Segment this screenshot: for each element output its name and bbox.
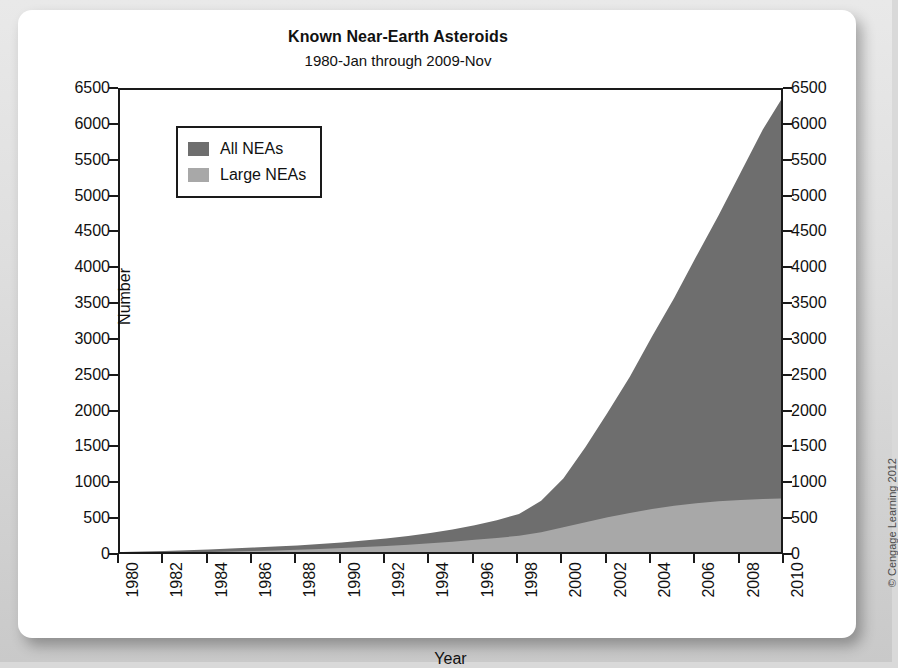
y-tick-label-right: 1000 <box>791 474 861 490</box>
legend-item-large-neas: Large NEAs <box>188 162 306 188</box>
y-tick-label-left: 5500 <box>44 152 110 168</box>
y-tick-label-right: 6000 <box>791 116 861 132</box>
y-tick-label-left: 3000 <box>44 331 110 347</box>
legend-label-all-neas: All NEAs <box>220 140 283 158</box>
y-tick-left <box>109 338 118 340</box>
y-tick-label-left: 4500 <box>44 223 110 239</box>
y-tick-label-left: 1000 <box>44 474 110 490</box>
y-tick-label-right: 3000 <box>791 331 861 347</box>
y-tick-left <box>109 230 118 232</box>
x-tick-label: 1984 <box>213 562 231 598</box>
y-tick-label-right: 4500 <box>791 223 861 239</box>
y-tick-label-right: 5500 <box>791 152 861 168</box>
y-tick-label-left: 3500 <box>44 295 110 311</box>
y-tick-label-right: 500 <box>791 510 861 526</box>
x-tick-label: 1998 <box>523 562 541 598</box>
y-tick-label-left: 4000 <box>44 259 110 275</box>
x-tick-label: 2008 <box>745 562 763 598</box>
figure-card: Known Near-Earth Asteroids 1980-Jan thro… <box>18 10 856 638</box>
y-tick-label-left: 1500 <box>44 438 110 454</box>
y-tick-left <box>109 87 118 89</box>
legend-item-all-neas: All NEAs <box>188 136 306 162</box>
y-tick-label-right: 4000 <box>791 259 861 275</box>
y-tick-label-right: 5000 <box>791 188 861 204</box>
y-tick-left <box>109 445 118 447</box>
x-tick-label: 1986 <box>257 562 275 598</box>
x-tick-label: 2000 <box>567 562 585 598</box>
y-tick-label-right: 3500 <box>791 295 861 311</box>
x-tick-label: 1982 <box>168 562 186 598</box>
y-tick-left <box>109 517 118 519</box>
x-tick-label: 1980 <box>124 562 142 598</box>
x-tick-label: 1994 <box>434 562 452 598</box>
y-tick-label-left: 5000 <box>44 188 110 204</box>
y-axis-title: Number <box>116 268 134 325</box>
y-tick-label-left: 2500 <box>44 367 110 383</box>
legend-swatch-all-neas <box>188 142 209 156</box>
chart-subtitle: 1980-Jan through 2009-Nov <box>18 52 778 69</box>
y-axis-labels-left: 0500100015002000250030003500400045005000… <box>44 88 110 554</box>
copyright-credit: © Cengage Learning 2012 <box>886 458 898 587</box>
y-tick-label-left: 2000 <box>44 403 110 419</box>
y-tick-label-right: 0 <box>791 546 861 562</box>
x-tick-label: 1988 <box>301 562 319 598</box>
y-tick-left <box>109 123 118 125</box>
chart-legend: All NEAs Large NEAs <box>176 126 322 198</box>
x-tick-label: 2006 <box>700 562 718 598</box>
x-axis-labels: 1980198219841986198819901992199419961998… <box>118 558 783 638</box>
x-tick-label: 2010 <box>789 562 807 598</box>
x-tick-label: 2004 <box>656 562 674 598</box>
x-axis-title: Year <box>118 650 783 668</box>
chart-title: Known Near-Earth Asteroids <box>18 28 778 46</box>
x-tick-label: 1990 <box>346 562 364 598</box>
y-axis-labels-right: 0500100015002000250030003500400045005000… <box>791 88 861 554</box>
y-tick-label-left: 6000 <box>44 116 110 132</box>
plot-area: 0500100015002000250030003500400045005000… <box>118 88 783 554</box>
x-tick-label: 1992 <box>390 562 408 598</box>
y-tick-label-left: 500 <box>44 510 110 526</box>
y-tick-left <box>109 374 118 376</box>
y-tick-left <box>109 410 118 412</box>
x-tick-label: 2002 <box>612 562 630 598</box>
y-tick-label-right: 1500 <box>791 438 861 454</box>
legend-swatch-large-neas <box>188 168 209 182</box>
y-tick-left <box>109 481 118 483</box>
series-area-large-neas <box>120 498 783 554</box>
legend-label-large-neas: Large NEAs <box>220 166 306 184</box>
x-tick-label: 1996 <box>479 562 497 598</box>
y-tick-label-right: 2000 <box>791 403 861 419</box>
y-tick-label-right: 2500 <box>791 367 861 383</box>
y-tick-label-left: 6500 <box>44 80 110 96</box>
y-tick-label-left: 0 <box>44 546 110 562</box>
y-tick-left <box>109 159 118 161</box>
y-tick-left <box>109 195 118 197</box>
y-tick-label-right: 6500 <box>791 80 861 96</box>
